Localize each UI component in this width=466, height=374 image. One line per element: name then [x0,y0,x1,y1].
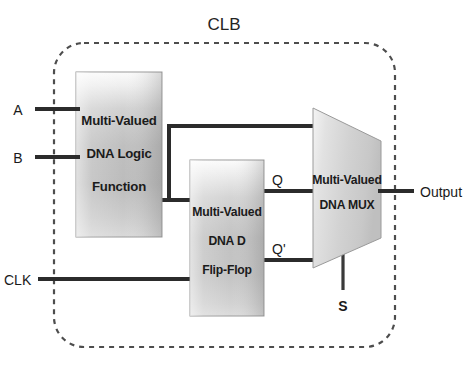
dna-mux-line2: DNA MUX [319,198,375,212]
label-ff-qbar: Q' [272,241,286,257]
diagram-canvas: Multi-Valued DNA Logic Function Multi-Va… [0,0,466,374]
flip-flop-line3: Flip-Flop [202,263,252,277]
flip-flop-line1: Multi-Valued [192,205,261,219]
block-logic-function[interactable]: Multi-Valued DNA Logic Function [76,72,162,237]
dna-mux-line1: Multi-Valued [312,173,381,187]
logic-function-line3: Function [92,179,146,194]
flip-flop-line2: DNA D [208,234,246,248]
logic-function-line1: Multi-Valued [81,113,156,128]
block-dna-mux[interactable]: Multi-Valued DNA MUX [312,108,381,268]
label-input-clk: CLK [4,272,32,288]
diagram-title: CLB [207,15,240,34]
label-mux-select-s: S [338,298,347,314]
block-d-flip-flop[interactable]: Multi-Valued DNA D Flip-Flop [190,160,264,316]
label-output: Output [420,184,462,200]
logic-function-line2: DNA Logic [86,146,151,161]
clb-block-diagram: Multi-Valued DNA Logic Function Multi-Va… [0,0,466,374]
label-input-a: A [13,102,23,118]
label-ff-q: Q [272,172,283,188]
label-input-b: B [13,150,22,166]
